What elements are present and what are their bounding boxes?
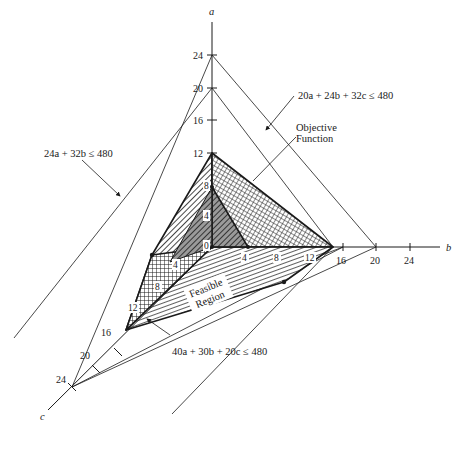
inner-b4: 4 (242, 253, 247, 263)
constraint-label-2: 20a + 24b + 32c ≤ 480 (298, 90, 393, 101)
a-tick-20: 20 (193, 83, 203, 94)
origin-label: 0 (204, 241, 209, 251)
inner-c8: 8 (155, 282, 160, 292)
inner-b12: 12 (305, 253, 315, 263)
c-tick-24: 24 (56, 374, 66, 385)
a-tick-12: 12 (193, 148, 203, 159)
c-axis-label: c (40, 411, 45, 422)
c-axis (48, 247, 212, 410)
objective-label-line1: Objective (296, 122, 337, 133)
lp-feasible-region-diagram: a b c 24 20 16 12 16 20 24 16 20 24 8 4 … (0, 0, 467, 454)
constraint-label-1: 24a + 32b ≤ 480 (44, 148, 113, 159)
b-tick-20: 20 (370, 255, 380, 266)
constraint-label-3: 40a + 30b + 20c ≤ 480 (172, 346, 267, 357)
a-axis-label: a (209, 6, 214, 17)
b-tick-24: 24 (404, 255, 414, 266)
a-tick-16: 16 (193, 115, 203, 126)
inner-c4: 4 (173, 260, 178, 270)
inner-a4: 4 (204, 211, 209, 221)
c-tick-20: 20 (80, 350, 90, 361)
c-tick-16: 16 (101, 327, 111, 338)
inner-c12: 12 (128, 303, 138, 313)
a-tick-24: 24 (193, 50, 203, 61)
inner-a8: 8 (204, 181, 209, 191)
feasible-region-polyhedron (126, 153, 333, 330)
b-axis-label: b (446, 242, 451, 253)
b-tick-16: 16 (336, 255, 346, 266)
inner-b8: 8 (274, 253, 279, 263)
objective-label-line2: Function (296, 133, 334, 144)
